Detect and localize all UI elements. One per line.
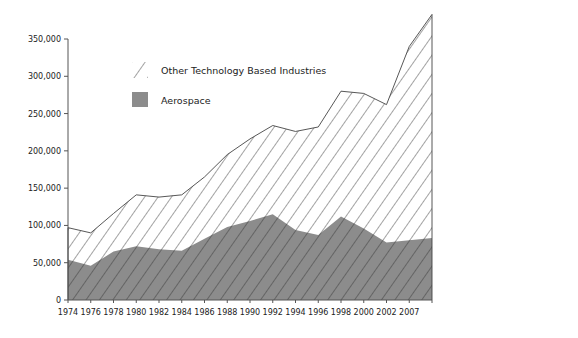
y-tick-label: 350,000 <box>28 35 61 44</box>
legend: Other Technology Based Industries Aerosp… <box>132 62 326 107</box>
x-tick-label: 1978 <box>103 308 123 317</box>
x-tick-label: 1984 <box>172 308 192 317</box>
y-tick-label: 50,000 <box>33 259 61 268</box>
x-tick-label: 2002 <box>376 308 396 317</box>
x-tick-label: 1990 <box>240 308 260 317</box>
x-tick-label: 2000 <box>354 308 374 317</box>
y-tick-label: 200,000 <box>28 147 61 156</box>
hatch-overlay <box>68 14 432 300</box>
x-tick-label: 1988 <box>217 308 237 317</box>
y-axis: 050,000100,000150,000200,000250,000300,0… <box>28 35 68 305</box>
legend-item-aerospace: Aerospace <box>132 92 211 107</box>
legend-label-other: Other Technology Based Industries <box>161 65 326 76</box>
y-tick-label: 100,000 <box>28 221 61 230</box>
x-tick-label: 1992 <box>263 308 283 317</box>
plot-area <box>68 14 432 300</box>
x-tick-label: 1994 <box>285 308 305 317</box>
gray-swatch-icon <box>132 92 148 107</box>
x-tick-label: 2007 <box>399 308 419 317</box>
y-tick-label: 0 <box>56 296 61 305</box>
legend-item-other: Other Technology Based Industries <box>132 62 326 78</box>
x-axis: 1974197619781980198219841986198819901992… <box>58 300 432 317</box>
x-tick-label: 1998 <box>331 308 351 317</box>
x-tick-label: 1976 <box>81 308 101 317</box>
y-tick-label: 300,000 <box>28 72 61 81</box>
y-tick-label: 150,000 <box>28 184 61 193</box>
x-tick-label: 1982 <box>149 308 169 317</box>
y-tick-label: 250,000 <box>28 110 61 119</box>
stacked-area-chart: 050,000100,000150,000200,000250,000300,0… <box>0 0 578 338</box>
x-tick-label: 1996 <box>308 308 328 317</box>
x-tick-label: 1986 <box>194 308 214 317</box>
x-tick-label: 1974 <box>58 308 78 317</box>
legend-label-aerospace: Aerospace <box>161 95 211 106</box>
x-tick-label: 1980 <box>126 308 146 317</box>
hatch-swatch-icon <box>132 62 148 78</box>
